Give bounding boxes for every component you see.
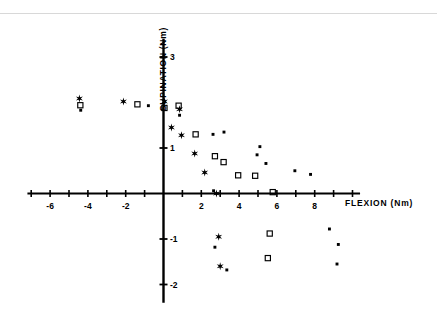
- y-axis-tick-label: 3: [170, 52, 175, 62]
- data-point-square: [212, 154, 217, 159]
- x-axis-tick-label: -2: [122, 201, 130, 211]
- data-point-star: [178, 131, 185, 139]
- data-point-dot: [309, 173, 312, 176]
- x-axis-tick-label: 4: [237, 201, 242, 211]
- data-point-square: [221, 160, 226, 165]
- y-axis-tick-label: -1: [170, 234, 178, 244]
- x-axis-tick-label: 8: [312, 201, 317, 211]
- data-point-dot: [212, 133, 215, 136]
- data-point-star: [191, 149, 198, 157]
- y-axis-label-wrap: SUPINATION (Nm): [150, 14, 164, 134]
- data-point-star: [120, 98, 127, 106]
- plot-canvas: -6-4-2246831-1-2: [0, 0, 437, 315]
- data-point-dot: [256, 153, 259, 156]
- data-point-dot: [258, 145, 261, 148]
- data-point-square: [78, 103, 83, 108]
- data-point-star: [168, 124, 175, 132]
- data-point-dot: [225, 268, 228, 271]
- x-axis-tick-label: 6: [275, 201, 280, 211]
- data-point-square: [176, 103, 181, 108]
- data-point-dot: [336, 263, 339, 266]
- data-point-dot: [264, 162, 267, 165]
- data-point-dot: [79, 109, 82, 112]
- data-point-square: [267, 231, 272, 236]
- x-axis-label: FLEXION (Nm): [345, 198, 413, 208]
- data-point-square: [193, 132, 198, 137]
- data-point-dot: [293, 169, 296, 172]
- data-point-dot: [223, 131, 226, 134]
- x-axis-tick-label: -6: [46, 201, 54, 211]
- data-point-square: [265, 256, 270, 261]
- data-point-square: [253, 173, 258, 178]
- data-point-star: [201, 169, 208, 177]
- data-point-star: [76, 94, 83, 102]
- data-point-square: [135, 102, 140, 107]
- y-axis-tick-label: 1: [170, 143, 175, 153]
- data-point-dot: [337, 243, 340, 246]
- x-axis-tick-label: -4: [84, 201, 92, 211]
- data-point-dot: [328, 228, 331, 231]
- data-point-star: [176, 105, 183, 113]
- scatter-plot-figure: -6-4-2246831-1-2 SUPINATION (Nm) FLEXION…: [0, 0, 437, 315]
- data-point-dot: [212, 189, 215, 192]
- data-point-star: [217, 262, 224, 270]
- y-axis-tick-label: -2: [170, 280, 178, 290]
- data-point-star: [215, 233, 222, 241]
- y-axis-label: SUPINATION (Nm): [158, 10, 168, 128]
- x-axis-tick-label: 2: [199, 201, 204, 211]
- data-point-square: [236, 173, 241, 178]
- data-point-dot: [178, 114, 181, 117]
- data-point-dot: [213, 246, 216, 249]
